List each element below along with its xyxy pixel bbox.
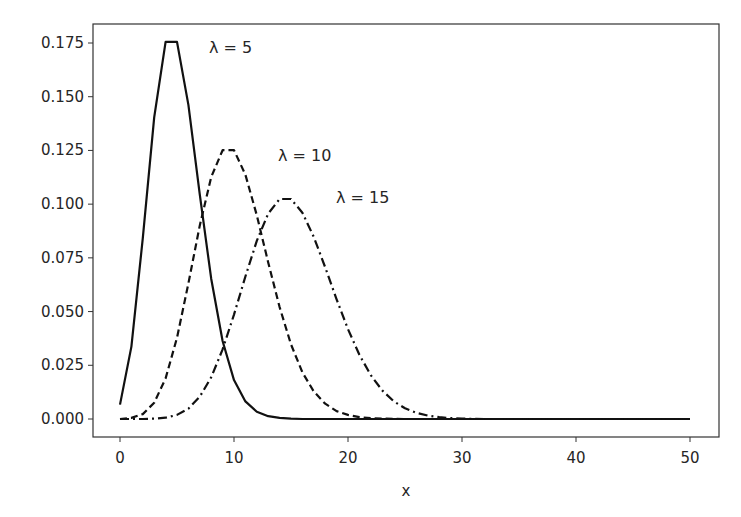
x-tick-label: 40 [566,449,585,467]
y-axis-ticks: 0.0000.0250.0500.0750.1000.1250.1500.175 [41,34,93,428]
plot-frame [93,24,719,437]
y-tick-label: 0.000 [41,410,84,428]
x-tick-label: 20 [338,449,357,467]
y-tick-label: 0.100 [41,195,84,213]
y-tick-label: 0.150 [41,88,84,106]
series-line-1 [120,42,690,419]
annotation-label: λ = 10 [278,146,331,165]
annotation-label: λ = 5 [209,38,252,57]
poisson-pmf-chart: 01020304050 0.0000.0250.0500.0750.1000.1… [0,0,741,517]
x-axis-ticks: 01020304050 [115,437,699,467]
series-lines [120,42,690,419]
y-tick-label: 0.050 [41,303,84,321]
x-tick-label: 50 [680,449,699,467]
y-tick-label: 0.075 [41,249,84,267]
series-line-2 [120,150,690,419]
curve-annotations: λ = 5λ = 10λ = 15 [209,38,389,207]
x-tick-label: 30 [452,449,471,467]
annotation-label: λ = 15 [336,188,389,207]
x-tick-label: 10 [224,449,243,467]
y-tick-label: 0.125 [41,141,84,159]
y-tick-label: 0.025 [41,356,84,374]
y-tick-label: 0.175 [41,34,84,52]
x-axis-label: x [402,482,411,500]
x-tick-label: 0 [115,449,125,467]
